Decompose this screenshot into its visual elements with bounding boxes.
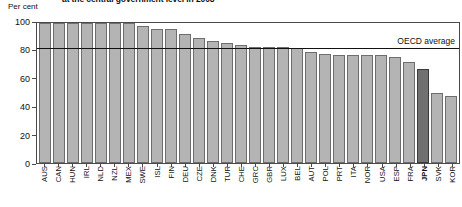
x-slot-USA: USA — [375, 164, 389, 207]
bar-series — [37, 23, 459, 163]
bar-TUR[interactable] — [221, 43, 232, 163]
bar-CAN[interactable] — [53, 23, 64, 163]
y-axis: 020406080100 — [0, 22, 36, 164]
x-tick-label-CAN: CAN — [54, 166, 63, 182]
x-tick-label-DEU: DEU — [180, 166, 189, 182]
x-slot-GRC: GRC — [248, 164, 262, 207]
x-slot-MEX: MEX — [121, 164, 135, 207]
bar-CHE[interactable] — [235, 45, 246, 163]
x-tick-label-CHE: CHE — [236, 166, 245, 182]
chart-title: at the central government level in 2008 — [62, 0, 214, 4]
oecd-average-line — [37, 48, 459, 49]
bar-slot-SWE — [136, 23, 150, 163]
bar-slot-CHE — [234, 23, 248, 163]
bar-FRA[interactable] — [403, 62, 414, 163]
bar-NLD[interactable] — [95, 23, 106, 163]
bar-slot-NZL — [108, 23, 122, 163]
bar-GBR[interactable] — [263, 47, 274, 163]
x-slot-NLD: NLD — [93, 164, 107, 207]
x-slot-DEU: DEU — [178, 164, 192, 207]
bar-IRL[interactable] — [81, 23, 92, 163]
bar-slot-PRT — [332, 23, 346, 163]
x-slot-SWE: SWE — [135, 164, 149, 207]
x-tick-label-POL: POL — [321, 166, 330, 182]
x-tick-label-DNK: DNK — [208, 166, 217, 182]
x-slot-KOR: KOR — [445, 164, 459, 207]
bar-JPN[interactable] — [417, 69, 428, 163]
bar-LUX[interactable] — [277, 47, 288, 163]
x-slot-POL: POL — [318, 164, 332, 207]
x-slot-CZE: CZE — [192, 164, 206, 207]
bar-DEU[interactable] — [179, 34, 190, 163]
x-tick-label-HUN: HUN — [68, 166, 77, 183]
bar-NOR[interactable] — [361, 55, 372, 163]
bar-PRT[interactable] — [333, 55, 344, 163]
chart-figure: at the central government level in 2008 … — [0, 0, 462, 207]
bar-slot-ISL — [150, 23, 164, 163]
bar-slot-BEL — [290, 23, 304, 163]
bar-slot-GRC — [248, 23, 262, 163]
x-tick-label-JPN: JPN — [419, 166, 428, 181]
x-slot-AUS: AUS — [37, 164, 51, 207]
x-slot-CAN: CAN — [51, 164, 65, 207]
y-tick-label-20: 20 — [20, 131, 30, 141]
bar-USA[interactable] — [375, 55, 386, 163]
bar-slot-POL — [318, 23, 332, 163]
bar-ESP[interactable] — [389, 57, 400, 163]
x-tick-label-USA: USA — [377, 166, 386, 182]
x-tick-label-CZE: CZE — [194, 166, 203, 182]
x-tick-label-NLD: NLD — [96, 166, 105, 182]
bar-slot-LUX — [276, 23, 290, 163]
bar-slot-USA — [374, 23, 388, 163]
x-slot-NOR: NOR — [360, 164, 374, 207]
y-tick-label-40: 40 — [20, 102, 30, 112]
bar-slot-CZE — [192, 23, 206, 163]
x-slot-NZL: NZL — [107, 164, 121, 207]
x-tick-label-AUT: AUT — [307, 166, 316, 182]
plot-inner: OECD average — [37, 23, 459, 163]
bar-POL[interactable] — [319, 54, 330, 163]
bar-slot-IRL — [80, 23, 94, 163]
bar-GRC[interactable] — [249, 47, 260, 163]
x-tick-label-MEX: MEX — [124, 166, 133, 183]
bar-slot-GBR — [262, 23, 276, 163]
x-tick-label-NOR: NOR — [363, 166, 372, 183]
bar-SVK[interactable] — [431, 93, 442, 163]
x-slot-JPN: JPN — [417, 164, 431, 207]
bar-CZE[interactable] — [193, 38, 204, 163]
bar-DNK[interactable] — [207, 41, 218, 163]
x-slot-AUT: AUT — [304, 164, 318, 207]
x-slot-BEL: BEL — [290, 164, 304, 207]
bar-slot-AUS — [38, 23, 52, 163]
x-tick-label-ITA: ITA — [349, 166, 358, 178]
x-slot-CHE: CHE — [234, 164, 248, 207]
bar-AUT[interactable] — [305, 52, 316, 163]
x-axis-labels: AUSCANHUNIRLNLDNZLMEXSWEISLFINDEUCZEDNKT… — [36, 164, 460, 207]
x-tick-label-FRA: FRA — [405, 166, 414, 182]
x-tick-label-KOR: KOR — [447, 166, 456, 183]
bar-ITA[interactable] — [347, 55, 358, 163]
bar-MEX[interactable] — [123, 23, 134, 163]
bar-slot-NLD — [94, 23, 108, 163]
bar-slot-DEU — [178, 23, 192, 163]
bar-slot-HUN — [66, 23, 80, 163]
x-tick-label-AUS: AUS — [40, 166, 49, 182]
bar-slot-FIN — [164, 23, 178, 163]
x-tick-label-IRL: IRL — [82, 166, 91, 178]
bar-BEL[interactable] — [291, 48, 302, 163]
x-slot-ITA: ITA — [346, 164, 360, 207]
bar-slot-NOR — [360, 23, 374, 163]
bar-slot-AUT — [304, 23, 318, 163]
bar-AUS[interactable] — [39, 23, 50, 163]
x-slot-ESP: ESP — [389, 164, 403, 207]
oecd-average-label: OECD average — [397, 36, 455, 46]
x-tick-label-LUX: LUX — [279, 166, 288, 181]
x-tick-label-GBR: GBR — [265, 166, 274, 183]
bar-slot-MEX — [122, 23, 136, 163]
x-slot-PRT: PRT — [332, 164, 346, 207]
x-slot-LUX: LUX — [276, 164, 290, 207]
bar-HUN[interactable] — [67, 23, 78, 163]
bar-KOR[interactable] — [445, 96, 456, 163]
bar-SWE[interactable] — [137, 26, 148, 163]
bar-NZL[interactable] — [109, 23, 120, 163]
